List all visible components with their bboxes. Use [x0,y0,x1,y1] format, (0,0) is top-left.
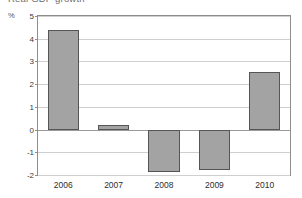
gridline [38,175,290,176]
gridline [38,16,290,17]
y-tick-mark [35,175,38,176]
x-axis-tick-label: 2010 [255,180,274,190]
y-tick-mark [35,130,38,131]
chart-title: Real GDP growth [8,0,208,4]
y-axis-unit-label: % [8,11,15,20]
y-axis-tick-label: 5 [30,12,34,21]
x-axis-tick-label: 2006 [54,180,73,190]
x-axis-tick-label: 2008 [155,180,174,190]
y-tick-mark [35,84,38,85]
y-tick-mark [35,39,38,40]
bar-2008 [148,130,179,172]
plot-area: 543210-1-220062007200820092010 [37,15,291,176]
x-axis-tick-label: 2007 [104,180,123,190]
y-axis-tick-label: 3 [30,57,34,66]
y-axis-tick-label: -1 [27,148,34,157]
x-axis-tick-label: 2009 [205,180,224,190]
bar-2007 [98,125,129,130]
y-tick-mark [35,61,38,62]
y-tick-mark [35,16,38,17]
y-tick-mark [35,152,38,153]
y-axis-tick-label: -2 [27,171,34,180]
y-axis-tick-label: 4 [30,34,34,43]
bar-2006 [48,30,79,130]
y-axis-tick-label: 0 [30,125,34,134]
y-axis-tick-label: 1 [30,102,34,111]
y-tick-mark [35,107,38,108]
y-axis-tick-label: 2 [30,80,34,89]
bar-2009 [199,130,230,171]
bar-2010 [249,72,280,130]
chart-figure: Real GDP growth % 543210-1-2200620072008… [0,0,302,198]
